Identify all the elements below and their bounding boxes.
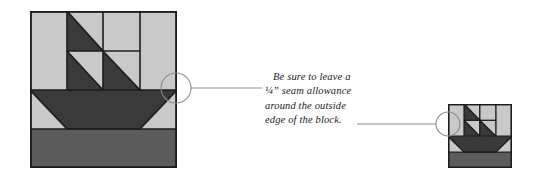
annotation-line-2: ¼” seam allowance xyxy=(265,84,351,98)
small-sailboat-block xyxy=(448,104,512,168)
sky-unit-r1c3 xyxy=(103,11,140,51)
annotation-line-3: around the outside xyxy=(265,99,351,113)
large-sailboat-block xyxy=(30,11,177,168)
small-sailboat-block-svg xyxy=(448,104,512,168)
annotation-line-4: edge of the block. xyxy=(265,113,351,127)
large-sailboat-block-svg xyxy=(30,11,177,168)
water-band xyxy=(30,129,177,168)
figure-canvas: Be sure to leave a ¼” seam allowance aro… xyxy=(0,0,546,178)
annotation-line-1: Be sure to leave a xyxy=(265,70,351,84)
small-sky-unit-r1c3 xyxy=(480,104,496,120)
annotation-text: Be sure to leave a ¼” seam allowance aro… xyxy=(265,70,351,128)
small-water-band xyxy=(448,152,512,168)
